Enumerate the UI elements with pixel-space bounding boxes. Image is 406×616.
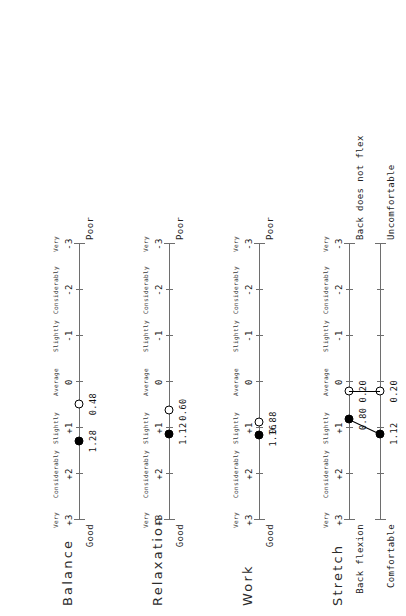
axis-tick-+1 — [377, 427, 384, 428]
scale-word-3: Average — [322, 368, 329, 396]
scale-word-2: Slightly — [322, 412, 329, 444]
scale-word-3: Average — [232, 368, 239, 396]
axis-endcap-right — [254, 243, 265, 244]
axis-tick--1 — [346, 335, 353, 336]
scale-word-1: Considerably — [232, 450, 239, 498]
axis: ComfortableUncomfortable1.120.20 — [380, 244, 406, 520]
scale-tick--1: -1 — [64, 330, 74, 342]
scale-tick-row: +3+2+10-1-2-3 — [64, 244, 77, 520]
scale-word-0: Very — [142, 512, 149, 528]
axis: GoodPoor1.120.60 — [169, 244, 203, 520]
axis-tick-+2 — [76, 473, 83, 474]
marker-value-label: 0.88 — [268, 411, 278, 433]
scale-word-6: Very — [142, 236, 149, 252]
axis-tick-+1 — [256, 427, 263, 428]
axis-right-label: Poor — [85, 217, 95, 244]
axis-tick--2 — [346, 289, 353, 290]
scale-tick-+3: +3 — [244, 514, 254, 526]
scale-word-2: Slightly — [142, 412, 149, 444]
axis-tick-+2 — [346, 473, 353, 474]
axis-endcap-right — [164, 243, 175, 244]
axis-tick-+1 — [166, 427, 173, 428]
scale-tick--2: -2 — [334, 284, 344, 296]
axis-tick-+2 — [166, 473, 173, 474]
axis-tick--2 — [377, 289, 384, 290]
scale-word-row: VeryConsiderablySlightlyAverageSlightlyC… — [232, 244, 243, 520]
scale-tick-0: 0 — [64, 379, 74, 385]
scale-word-4: Slightly — [232, 320, 239, 352]
axis-tick--2 — [256, 289, 263, 290]
axis-tick-0 — [346, 381, 353, 382]
scale-tick-+2: +2 — [154, 468, 164, 480]
scale-word-row: VeryConsiderablySlightlyAverageSlightlyC… — [142, 244, 153, 520]
scale-tick--2: -2 — [64, 284, 74, 296]
axis-endcap-left — [375, 519, 386, 520]
axis-tick--2 — [166, 289, 173, 290]
scale-tick--1: -1 — [244, 330, 254, 342]
axis-left-label: Good — [175, 520, 185, 547]
scale-tick-+3: +3 — [154, 514, 164, 526]
axis-line — [169, 244, 170, 520]
axis-tick-0 — [76, 381, 83, 382]
axis-tick-0 — [166, 381, 173, 382]
filled-circle-marker — [255, 431, 264, 440]
scale-tick--3: -3 — [244, 238, 254, 250]
scale-tick-0: 0 — [334, 379, 344, 385]
scale-word-6: Very — [52, 236, 59, 252]
panel-title-balance: Balance — [60, 539, 75, 606]
open-circle-marker — [165, 405, 174, 414]
scale-tick-+2: +2 — [64, 468, 74, 480]
axis-tick--1 — [377, 335, 384, 336]
scale-word-2: Slightly — [232, 412, 239, 444]
scale-word-2: Slightly — [52, 412, 59, 444]
scale-word-row: VeryConsiderablySlightlyAverageSlightlyC… — [322, 244, 333, 520]
axis-endcap-left — [344, 519, 355, 520]
scale-word-1: Considerably — [142, 450, 149, 498]
axis-line — [259, 244, 260, 520]
scale-tick--3: -3 — [334, 238, 344, 250]
axis-endcap-right — [375, 243, 386, 244]
axis-endcap-right — [344, 243, 355, 244]
filled-circle-marker — [75, 436, 84, 445]
scale-word-1: Considerably — [322, 450, 329, 498]
scale-word-3: Average — [142, 368, 149, 396]
scale-word-0: Very — [232, 512, 239, 528]
scale-word-5: Considerably — [52, 266, 59, 314]
axis-tick--1 — [166, 335, 173, 336]
axis-tick-0 — [256, 381, 263, 382]
axis-endcap-left — [254, 519, 265, 520]
scale-tick-+1: +1 — [244, 422, 254, 434]
scale-tick-row: +3+2+10-1-2-3 — [244, 244, 257, 520]
marker-value-label: 1.28 — [88, 430, 98, 452]
scale-tick-+2: +2 — [244, 468, 254, 480]
scale-word-4: Slightly — [322, 320, 329, 352]
scale-tick-+1: +1 — [334, 422, 344, 434]
scale-tick-+1: +1 — [64, 422, 74, 434]
scale-word-0: Very — [322, 512, 329, 528]
axis-left-label: Back flexion — [355, 520, 365, 594]
axis-tick--1 — [76, 335, 83, 336]
scale-tick--1: -1 — [334, 330, 344, 342]
axis-tick--1 — [256, 335, 263, 336]
axis-tick-+2 — [377, 473, 384, 474]
axis-tick-+1 — [76, 427, 83, 428]
scale-tick--2: -2 — [154, 284, 164, 296]
axis-left-label: Comfortable — [386, 520, 396, 588]
scale-tick--2: -2 — [244, 284, 254, 296]
marker-value-label: 0.48 — [88, 393, 98, 415]
scale-word-5: Considerably — [322, 266, 329, 314]
scale-word-6: Very — [322, 236, 329, 252]
panel-title-relaxation: Relaxation — [150, 515, 165, 606]
axis-left-label: Good — [85, 520, 95, 547]
scale-word-1: Considerably — [52, 450, 59, 498]
open-circle-marker — [75, 400, 84, 409]
scale-word-5: Considerably — [232, 266, 239, 314]
scale-tick--1: -1 — [154, 330, 164, 342]
scale-tick--3: -3 — [154, 238, 164, 250]
axis-line — [380, 244, 381, 520]
scale-word-5: Considerably — [142, 266, 149, 314]
scale-word-0: Very — [52, 512, 59, 528]
panel-title-work: Work — [240, 564, 255, 606]
axis-endcap-right — [74, 243, 85, 244]
scale-tick-row: +3+2+10-1-2-3 — [334, 244, 347, 520]
